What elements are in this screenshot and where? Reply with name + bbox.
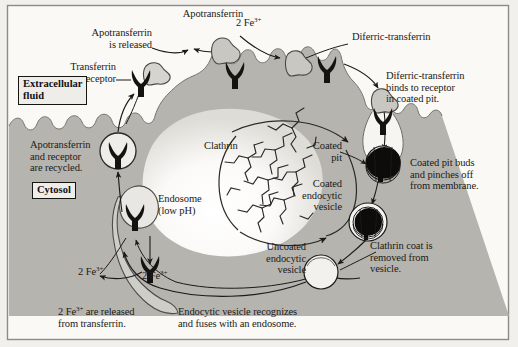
label-coated-pit: Coated pit	[292, 140, 342, 163]
label-diferric-transferrin: Diferric-transferrin	[352, 31, 430, 43]
label-endosome: Endosome (low pH)	[158, 193, 202, 216]
label-clathrin-removed: Clathrin coat is removed from vesicle.	[370, 240, 433, 275]
uncoated-endocytic-vesicle-structure	[304, 255, 338, 289]
label-coated-endocytic-vesicle: Coated endocytic vesicle	[276, 178, 342, 213]
label-coated-pit-buds: Coated pit buds and pinches off from mem…	[410, 157, 479, 192]
label-uncoated-endocytic-vesicle: Uncoated endocytic vesicle	[240, 241, 306, 276]
label-fe-released-left: 2 Fe3+	[78, 266, 103, 278]
endocytosis-diagram: or nes an ordio n ro es of ransferrin re…	[0, 0, 518, 347]
coated-pit-structure	[366, 146, 401, 183]
region-label-cytosol: Cytosol	[32, 182, 76, 199]
coated-endocytic-vesicle-structure	[349, 203, 387, 241]
label-two-fe-top: 2 Fe3+	[236, 17, 261, 29]
label-fe-released-caption: 2 Fe3+ are released from transferrin.	[58, 306, 134, 329]
region-label-extracellular-fluid: Extracellular fluid	[18, 76, 87, 105]
label-clathrin: Clathrin	[204, 140, 238, 152]
label-recycled: Apotransferrin and receptor are recycled…	[30, 139, 90, 174]
label-diferric-binds: Diferric-transferrin binds to receptor i…	[386, 70, 464, 105]
label-apotransferrin-released: Apotransferrin is released	[40, 27, 152, 50]
label-vesicle-fuses: Endocytic vesicle recognizes and fuses w…	[178, 306, 297, 329]
label-fe-released-mid: 2 Fe3+	[142, 270, 167, 282]
